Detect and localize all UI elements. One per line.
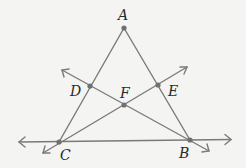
point-b xyxy=(187,137,192,142)
line-bd xyxy=(62,70,209,151)
label-f: F xyxy=(120,86,130,100)
point-e xyxy=(155,82,160,87)
point-d xyxy=(87,83,92,88)
point-f xyxy=(121,102,126,107)
label-e: E xyxy=(168,84,178,98)
point-c xyxy=(56,139,61,144)
label-b: B xyxy=(179,146,189,160)
label-d: D xyxy=(70,84,81,98)
label-c: C xyxy=(60,148,71,162)
point-a xyxy=(121,25,126,30)
label-a: A xyxy=(118,8,128,22)
line-cb xyxy=(19,140,231,143)
geometry-diagram: A D E F C B xyxy=(0,0,246,168)
diagram-svg xyxy=(0,0,246,168)
